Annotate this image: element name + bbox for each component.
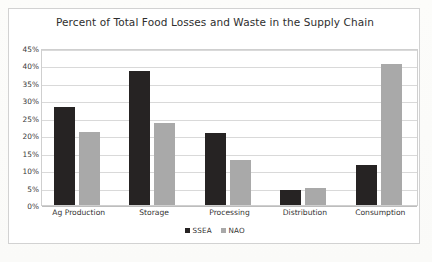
legend-label: NAO (228, 226, 244, 235)
y-axis-tick-label: 45% (13, 45, 39, 54)
chart-title: Percent of Total Food Losses and Waste i… (9, 16, 421, 28)
x-axis-category-labels: Ag ProductionStorageProcessingDistributi… (41, 208, 418, 224)
bar-nao (230, 160, 251, 205)
chart-container: Percent of Total Food Losses and Waste i… (8, 8, 420, 244)
bar-group (193, 50, 268, 205)
y-axis-tick-label: 0% (13, 202, 39, 211)
y-axis-tick-label: 15% (13, 149, 39, 158)
x-axis-tick-label: Distribution (267, 208, 342, 217)
bar-group (344, 50, 419, 205)
plot-area (41, 49, 418, 206)
x-axis-tick-label: Ag Production (41, 208, 116, 217)
bar-nao (79, 132, 100, 205)
bar-group (117, 50, 192, 205)
x-axis-tick-label: Storage (116, 208, 191, 217)
bar-nao (381, 64, 402, 205)
x-axis-tick-label: Consumption (343, 208, 418, 217)
legend-swatch-icon (185, 228, 190, 233)
y-axis-tick-label: 30% (13, 97, 39, 106)
bar-nao (154, 123, 175, 205)
legend-swatch-icon (221, 228, 226, 233)
y-axis-tick-label: 35% (13, 79, 39, 88)
y-axis-tick-label: 40% (13, 62, 39, 71)
y-axis-tick-label: 10% (13, 167, 39, 176)
chart-legend: SSEANAO (9, 226, 421, 235)
y-axis-tick-label: 5% (13, 184, 39, 193)
bar-ssea (205, 133, 226, 205)
legend-item-ssea: SSEA (185, 226, 212, 235)
bar-nao (305, 188, 326, 205)
gridline-0 (42, 206, 417, 207)
bar-ssea (129, 71, 150, 205)
bar-ssea (54, 107, 75, 205)
bar-ssea (356, 165, 377, 205)
legend-label: SSEA (193, 226, 212, 235)
y-axis-tick-label: 20% (13, 132, 39, 141)
bar-group (42, 50, 117, 205)
y-axis-tick-label: 25% (13, 114, 39, 123)
x-axis-tick-label: Processing (192, 208, 267, 217)
bar-ssea (280, 190, 301, 205)
bar-group (268, 50, 343, 205)
legend-item-nao: NAO (221, 226, 245, 235)
bars-layer (42, 50, 417, 205)
scanned-page-background: Percent of Total Food Losses and Waste i… (0, 0, 432, 262)
y-axis-tick-labels: 45%40%35%30%25%20%15%10%5%0% (11, 49, 39, 206)
